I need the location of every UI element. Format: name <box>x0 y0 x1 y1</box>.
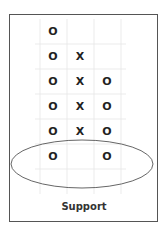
x-mark: X <box>76 75 85 88</box>
o-mark: O <box>102 125 111 138</box>
x-mark: X <box>76 125 85 138</box>
o-mark: O <box>48 50 57 63</box>
x-mark: X <box>76 100 85 113</box>
o-mark: O <box>102 100 111 113</box>
o-mark: O <box>48 75 57 88</box>
o-mark: O <box>102 75 111 88</box>
x-mark: X <box>76 50 85 63</box>
o-mark: O <box>48 125 57 138</box>
o-mark: O <box>102 150 111 163</box>
support-ellipse <box>11 140 153 188</box>
o-mark: O <box>48 25 57 38</box>
o-mark: O <box>48 100 57 113</box>
pnf-grid: OOXOXOOXOOXOOO <box>0 0 168 234</box>
o-mark: O <box>48 150 57 163</box>
diagram-label: Support <box>0 201 168 212</box>
